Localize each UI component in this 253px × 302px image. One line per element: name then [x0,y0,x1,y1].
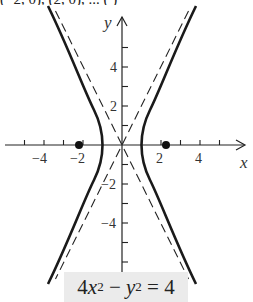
x-axis [5,140,245,150]
x-tick-label: −2 [70,151,85,166]
y-tick-label: −2 [101,177,116,192]
point-neg-2 [75,141,83,149]
point-pos-2 [162,141,170,149]
x-tick-label: 4 [195,151,202,166]
x-axis-label: x [239,153,248,172]
y-axis [117,17,127,300]
y-tick-label: 2 [110,99,117,114]
hyperbola-graph: −4 −2 2 4 4 2 −2 −4 x y [0,0,253,302]
x-tick-label: −4 [32,151,47,166]
x-tick-label: 2 [156,151,163,166]
eq-rhs: = 4 [142,275,175,300]
y-tick-label: 4 [110,60,117,75]
equation-label: 4x2 − y2 = 4 [64,272,188,302]
y-tick-label: −4 [101,216,116,231]
eq-x: x [88,275,97,300]
eq-coeff: 4 [77,275,88,300]
eq-minus: − [104,275,126,300]
y-axis-label: y [102,13,112,32]
eq-y: y [126,275,135,300]
